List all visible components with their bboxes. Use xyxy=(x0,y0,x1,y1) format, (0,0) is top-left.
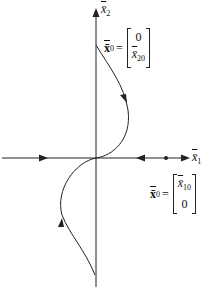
initial-condition-right: x̄0 = x̄10 0 xyxy=(150,174,196,214)
ic-right-cell-1: x̄10 xyxy=(178,175,191,196)
ic-top-symbol-sub: 0 xyxy=(110,44,114,53)
ic-top-cell-1: 0 xyxy=(135,29,141,46)
ic-right-cell-1-sub: 10 xyxy=(183,183,191,192)
x-axis-arrowhead-icon xyxy=(181,155,190,162)
flow-arrow-left-icon xyxy=(39,155,48,162)
x-axis-label-sub: 1 xyxy=(197,157,201,166)
ic-top-equals: = xyxy=(116,41,123,56)
initial-point-x1 xyxy=(164,156,168,160)
initial-condition-top: x̄0 = 0 x̄20 xyxy=(104,28,150,68)
ic-right-symbol-sub: 0 xyxy=(156,190,160,199)
ic-right-cell-2: 0 xyxy=(181,196,187,213)
ic-right-equals: = xyxy=(162,187,169,202)
y-axis-arrowhead-icon xyxy=(93,8,100,17)
trajectory-lower xyxy=(61,158,96,275)
y-axis-label-sub: 2 xyxy=(106,9,110,18)
trajectory-lower-arrow-icon xyxy=(58,218,64,227)
ic-top-matrix: 0 x̄20 xyxy=(127,28,150,68)
trajectory-upper-arrow-icon xyxy=(120,94,127,103)
y-axis-label: x̄2 xyxy=(101,2,110,18)
ic-top-cell-2: x̄20 xyxy=(132,46,145,67)
ic-top-cell-2-sub: 20 xyxy=(137,54,145,63)
ic-right-matrix: x̄10 0 xyxy=(173,174,196,214)
x-axis-label: x̄1 xyxy=(192,150,201,166)
flow-arrow-right-icon xyxy=(136,155,145,162)
